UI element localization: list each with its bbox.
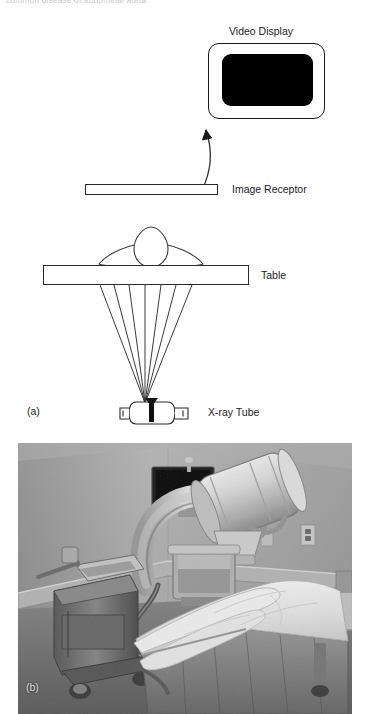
xray-beam-fan bbox=[100, 283, 230, 405]
panel-a-caption: (a) bbox=[27, 405, 40, 418]
video-display-monitor bbox=[208, 43, 325, 119]
xray-tube-icon bbox=[118, 398, 190, 428]
video-display-screen bbox=[222, 54, 313, 106]
label-video-display: Video Display bbox=[229, 25, 293, 38]
patient-table bbox=[43, 265, 249, 285]
image-receptor-block bbox=[85, 184, 218, 195]
patient-cross-section bbox=[95, 226, 207, 268]
panel-a-schematic: Video Display Image Receptor Table bbox=[0, 0, 370, 437]
panel-b-photograph: (b) bbox=[18, 443, 352, 714]
label-table: Table bbox=[261, 269, 286, 282]
panel-b-caption: (b) bbox=[26, 681, 39, 693]
label-image-receptor: Image Receptor bbox=[232, 183, 307, 196]
fluoroscopy-room-photo bbox=[18, 443, 352, 714]
label-xray-tube: X-ray Tube bbox=[208, 406, 259, 419]
signal-arrow-icon bbox=[180, 118, 230, 190]
